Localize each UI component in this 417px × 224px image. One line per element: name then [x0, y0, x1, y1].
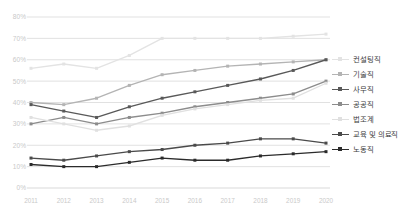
data-point — [30, 116, 33, 119]
x-axis-tick-label: 2016 — [180, 197, 210, 204]
data-point — [95, 67, 98, 70]
legend-swatch-icon — [332, 130, 349, 139]
data-point — [95, 122, 98, 125]
data-point — [128, 84, 131, 87]
legend-swatch-icon — [332, 115, 349, 124]
legend-item-label: 컨설팅직 — [353, 55, 381, 64]
legend-item-2[interactable]: 기술직 — [332, 67, 417, 82]
data-point — [128, 116, 131, 119]
data-point — [62, 165, 65, 168]
data-point — [62, 116, 65, 119]
legend-item-label: 교육 및 의료직 — [353, 130, 398, 139]
legend-swatch-icon — [332, 55, 349, 64]
legend-swatch-icon — [332, 145, 349, 154]
series-line — [31, 60, 326, 105]
legend-item-label: 공공직 — [353, 100, 374, 109]
data-point — [325, 142, 328, 145]
data-point — [128, 125, 131, 128]
data-point — [95, 154, 98, 157]
legend-item-label: 법조계 — [353, 115, 374, 124]
data-point — [30, 67, 33, 70]
x-axis-tick-label: 2013 — [82, 197, 112, 204]
data-point — [292, 92, 295, 95]
data-point — [95, 165, 98, 168]
data-point — [325, 150, 328, 153]
data-point — [193, 144, 196, 147]
data-point — [62, 122, 65, 125]
y-axis-tick-label: 50% — [4, 78, 26, 85]
data-point — [62, 63, 65, 66]
legend-swatch-icon — [332, 85, 349, 94]
data-point — [226, 37, 229, 40]
legend-item-4[interactable]: 공공직 — [332, 97, 417, 112]
legend-item-6[interactable]: 교육 및 의료직 — [332, 127, 417, 142]
data-point — [292, 137, 295, 140]
x-axis-tick-label: 2015 — [147, 197, 177, 204]
data-point — [193, 69, 196, 72]
series-6 — [30, 137, 328, 161]
legend-item-5[interactable]: 법조계 — [332, 112, 417, 127]
legend-swatch-icon — [332, 100, 349, 109]
series-line — [31, 83, 326, 130]
data-point — [325, 33, 328, 36]
data-point — [161, 157, 164, 160]
data-point — [226, 84, 229, 87]
data-point — [161, 73, 164, 76]
data-point — [226, 103, 229, 106]
data-point — [226, 159, 229, 162]
data-point — [292, 97, 295, 100]
legend-item-1[interactable]: 컨설팅직 — [332, 52, 417, 67]
x-axis-tick-label: 2014 — [114, 197, 144, 204]
data-point — [62, 110, 65, 113]
data-point — [193, 37, 196, 40]
x-axis-tick-label: 2018 — [245, 197, 275, 204]
data-point — [95, 97, 98, 100]
data-point — [259, 63, 262, 66]
data-point — [193, 107, 196, 110]
data-point — [259, 154, 262, 157]
legend-item-label: 사무직 — [353, 85, 374, 94]
data-point — [259, 137, 262, 140]
data-point — [30, 122, 33, 125]
data-point — [292, 60, 295, 63]
data-point — [292, 35, 295, 38]
data-point — [259, 37, 262, 40]
y-axis-tick-label: 70% — [4, 35, 26, 42]
legend-item-3[interactable]: 사무직 — [332, 82, 417, 97]
y-axis-tick-label: 60% — [4, 56, 26, 63]
data-point — [226, 65, 229, 68]
legend-item-label: 노동직 — [353, 145, 374, 154]
data-point — [30, 163, 33, 166]
series-5 — [30, 82, 328, 132]
data-point — [193, 90, 196, 93]
y-axis-tick-label: 20% — [4, 142, 26, 149]
x-axis-tick-label: 2020 — [311, 197, 341, 204]
y-axis-tick-label: 0% — [4, 184, 26, 191]
data-point — [161, 97, 164, 100]
data-point — [161, 148, 164, 151]
data-point — [161, 37, 164, 40]
y-axis-tick-label: 80% — [4, 13, 26, 20]
data-point — [325, 58, 328, 61]
data-point — [226, 142, 229, 145]
line-chart: 80%70%60%50%40%30%20%10%0% 2011201220132… — [0, 0, 417, 224]
x-axis-tick-label: 2019 — [278, 197, 308, 204]
data-point — [62, 103, 65, 106]
data-point — [161, 114, 164, 117]
y-axis-tick-label: 10% — [4, 163, 26, 170]
data-point — [95, 116, 98, 119]
data-point — [259, 77, 262, 80]
data-point — [95, 129, 98, 132]
x-axis-tick-label: 2017 — [213, 197, 243, 204]
y-axis-tick-label: 40% — [4, 99, 26, 106]
series-lines — [30, 33, 328, 169]
series-line — [31, 60, 326, 118]
x-axis-tick-label: 2011 — [16, 197, 46, 204]
data-point — [30, 157, 33, 160]
legend-item-7[interactable]: 노동직 — [332, 142, 417, 157]
x-axis-tick-label: 2012 — [49, 197, 79, 204]
data-point — [30, 103, 33, 106]
data-point — [259, 99, 262, 102]
data-point — [193, 159, 196, 162]
legend-item-label: 기술직 — [353, 70, 374, 79]
